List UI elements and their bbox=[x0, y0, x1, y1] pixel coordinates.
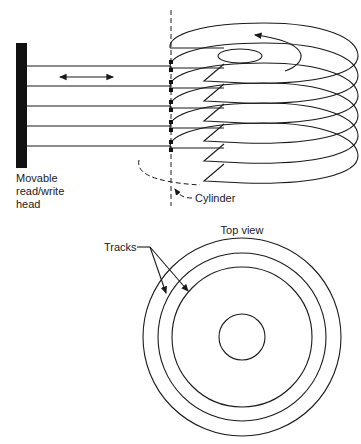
read-write-head bbox=[169, 148, 173, 152]
read-write-head bbox=[169, 80, 173, 84]
head-arms bbox=[27, 60, 173, 152]
cylinder-leader-line bbox=[175, 189, 192, 198]
top-view: Top view Tracks bbox=[104, 224, 341, 436]
platter-stack bbox=[170, 23, 358, 183]
tracks-pointer-arrow-1 bbox=[150, 247, 166, 293]
read-write-head bbox=[169, 88, 173, 92]
disk-diagram: Movable read/write head Cylinder Top vie… bbox=[0, 0, 361, 444]
side-view: Movable read/write head Cylinder bbox=[16, 10, 358, 210]
read-write-head bbox=[169, 140, 173, 144]
rotation-arrow-icon bbox=[255, 35, 301, 71]
read-write-head bbox=[169, 60, 173, 64]
cylinder-label: Cylinder bbox=[195, 192, 236, 204]
top-view-title: Top view bbox=[221, 224, 264, 236]
spindle-circle bbox=[219, 314, 265, 360]
head-label-line-2: read/write bbox=[16, 185, 64, 197]
head-label-line-3: head bbox=[16, 198, 40, 210]
platter bbox=[170, 123, 358, 183]
disk-outer-edge bbox=[143, 238, 341, 436]
read-write-head bbox=[169, 120, 173, 124]
read-write-head bbox=[169, 68, 173, 72]
read-write-head bbox=[169, 100, 173, 104]
platter bbox=[170, 103, 358, 163]
track-circle-inner bbox=[172, 267, 312, 407]
read-write-head bbox=[169, 128, 173, 132]
read-write-head bbox=[169, 108, 173, 112]
platter bbox=[170, 23, 358, 83]
tracks-label: Tracks bbox=[104, 241, 137, 253]
head-support-bar bbox=[16, 43, 27, 168]
cylinder-bottom-arc bbox=[139, 160, 200, 185]
platter bbox=[170, 83, 358, 143]
track-circle-outer bbox=[158, 253, 326, 421]
head-label-line-1: Movable bbox=[16, 172, 58, 184]
tracks-pointer-arrow-2 bbox=[150, 247, 188, 291]
platter bbox=[170, 63, 358, 123]
spindle-hole bbox=[218, 49, 262, 63]
platter bbox=[170, 43, 358, 103]
